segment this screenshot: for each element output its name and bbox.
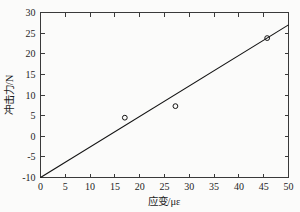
x-tick-label: 25 [160,181,170,192]
y-tick-marks [41,13,289,178]
plot-canvas: 05101520253035404550 -10-5051015202530 应… [0,0,300,212]
fit-line [41,25,289,178]
y-tick-label: 25 [26,28,36,39]
plot-frame [41,13,289,178]
y-tick-label: -10 [22,172,35,183]
y-tick-label: 0 [31,131,36,142]
fit-line-group [41,25,289,178]
x-tick-label: 5 [63,181,68,192]
data-points-group [122,36,269,120]
x-tick-label: 30 [184,181,194,192]
x-tick-marks [41,13,289,178]
chart-figure: 05101520253035404550 -10-5051015202530 应… [0,0,300,212]
x-tick-label: 10 [85,181,95,192]
x-tick-label: 40 [234,181,244,192]
x-tick-label: 15 [110,181,120,192]
y-tick-label: 10 [26,90,36,101]
x-tick-label: 0 [38,181,43,192]
y-axis-title: 冲击力/N [3,74,15,115]
x-tick-label: 20 [135,181,145,192]
x-axis-title: 应变/με [148,195,182,207]
y-tick-label: 20 [26,48,36,59]
x-tick-label: 50 [284,181,294,192]
x-tick-labels: 05101520253035404550 [38,181,294,192]
data-point-marker [173,104,178,109]
y-tick-label: -5 [27,151,35,162]
x-tick-label: 35 [209,181,219,192]
x-tick-label: 45 [259,181,269,192]
y-tick-label: 15 [26,69,36,80]
data-point-marker [122,115,127,120]
y-tick-labels: -10-5051015202530 [22,7,35,183]
y-tick-label: 5 [31,110,36,121]
y-tick-label: 30 [26,7,36,18]
